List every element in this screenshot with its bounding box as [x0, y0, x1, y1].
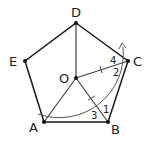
- label-d: D: [71, 5, 81, 20]
- label-b: B: [111, 122, 120, 137]
- angle-label-1: 1: [103, 104, 109, 115]
- angle-label-2: 2: [113, 67, 119, 78]
- angle-label-3: 3: [91, 110, 97, 121]
- arrow-head-icon: [119, 43, 126, 49]
- angle-label-4: 4: [110, 55, 116, 66]
- point-d: [74, 21, 78, 25]
- segment-oc: [76, 61, 128, 78]
- label-o: O: [59, 71, 69, 86]
- pentagon-diagram: D E C O A B 4 2 1 3: [0, 0, 152, 145]
- label-e: E: [9, 54, 17, 69]
- point-a: [42, 120, 46, 124]
- label-a: A: [29, 120, 38, 135]
- point-e: [23, 59, 27, 63]
- diagram-canvas: D E C O A B 4 2 1 3: [0, 0, 152, 145]
- point-o: [74, 76, 78, 80]
- point-c: [126, 59, 130, 63]
- label-c: C: [133, 54, 142, 69]
- point-b: [106, 120, 110, 124]
